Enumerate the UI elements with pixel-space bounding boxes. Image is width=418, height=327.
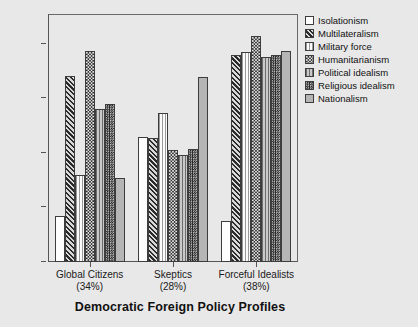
x-tick-mark [256, 262, 257, 267]
bar [231, 55, 241, 262]
bar-groups [48, 14, 298, 262]
bar [95, 109, 105, 262]
bar [221, 221, 231, 262]
legend-label: Nationalism [318, 93, 368, 104]
bar [261, 57, 271, 262]
y-tick-mark [41, 97, 46, 98]
legend-swatch-icon [305, 42, 314, 51]
x-tick-mark [90, 262, 91, 267]
bar [178, 155, 188, 262]
legend-item: Humanitarianism [305, 53, 415, 65]
legend-item: Military force [305, 40, 415, 52]
legend-item: Isolationism [305, 14, 415, 26]
legend-item: Political idealism [305, 66, 415, 78]
legend-swatch-icon [305, 29, 314, 38]
legend: IsolationismMultilateralismMilitary forc… [305, 14, 415, 104]
bar-group [131, 14, 214, 262]
x-tick-label-percent: (38%) [191, 281, 321, 293]
legend-label: Humanitarianism [318, 54, 389, 65]
x-tick-label-name: Skeptics [154, 269, 192, 280]
bar [115, 178, 125, 262]
bar [251, 36, 261, 262]
legend-item: Religious idealism [305, 79, 415, 91]
legend-label: Military force [318, 41, 372, 52]
legend-label: Political idealism [318, 67, 388, 78]
bar [198, 77, 208, 262]
legend-item: Nationalism [305, 92, 415, 104]
legend-swatch-icon [305, 16, 314, 25]
y-tick-mark [41, 152, 46, 153]
x-axis-title: Democratic Foreign Policy Profiles [0, 300, 360, 314]
bar [148, 138, 158, 262]
legend-label: Religious idealism [318, 80, 395, 91]
bar [158, 113, 168, 262]
legend-swatch-icon [305, 68, 314, 77]
x-tick-mark [173, 262, 174, 267]
legend-swatch-icon [305, 94, 314, 103]
bar [241, 52, 251, 262]
legend-item: Multilateralism [305, 27, 415, 39]
bar [75, 175, 85, 262]
legend-label: Multilateralism [318, 28, 379, 39]
legend-swatch-icon [305, 81, 314, 90]
legend-swatch-icon [305, 55, 314, 64]
y-tick-mark [41, 261, 46, 262]
bar-group [215, 14, 298, 262]
x-tick-label-name: Forceful Idealists [219, 269, 295, 280]
bar [168, 150, 178, 262]
x-tick-label: Forceful Idealists(38%) [191, 269, 321, 293]
bar [105, 104, 115, 262]
bar [65, 76, 75, 262]
y-tick-mark [41, 43, 46, 44]
y-tick-mark [41, 206, 46, 207]
bar [271, 55, 281, 262]
bar-group [48, 14, 131, 262]
bar [281, 51, 291, 262]
bar [55, 216, 65, 262]
bar [188, 149, 198, 262]
bar [85, 51, 95, 262]
legend-label: Isolationism [318, 15, 368, 26]
bar [138, 137, 148, 262]
bar-chart: Mean 23456 Global Citizens(34%)Skeptics(… [0, 0, 418, 327]
